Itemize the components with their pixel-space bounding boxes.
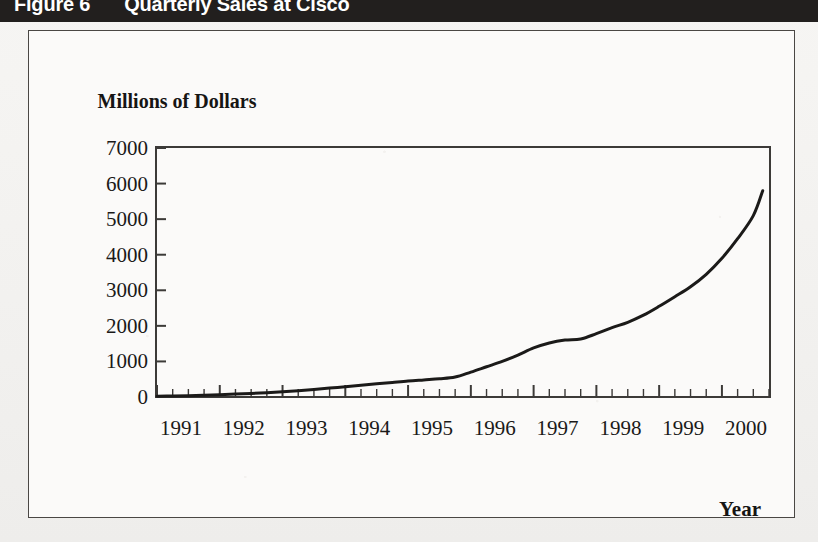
line-chart-svg [155, 146, 771, 398]
figure-number-label: Figure 6 [14, 0, 90, 16]
figure-title-bar: Figure 6 Quarterly Sales at Cisco [0, 0, 818, 22]
y-axis-title: Millions of Dollars [87, 89, 267, 115]
x-tick-label: 1997 [537, 416, 579, 441]
y-tick-label: 3000 [78, 278, 148, 303]
x-axis-quarterly-ticks [157, 385, 769, 397]
y-tick-label: 2000 [78, 313, 148, 338]
figure-title: Quarterly Sales at Cisco [124, 0, 349, 16]
y-tick-label: 4000 [78, 242, 148, 267]
x-tick-label: 1995 [411, 416, 453, 441]
x-tick-label: 2000 [725, 416, 767, 441]
x-tick-label: 1993 [286, 416, 328, 441]
y-axis-title-line1: Millions of Dollars [98, 90, 257, 112]
y-axis-tick-labels: 01000200030004000500060007000 [75, 146, 148, 398]
plot-frame [156, 146, 771, 398]
x-tick-label: 1996 [474, 416, 516, 441]
y-tick-label: 6000 [78, 171, 148, 196]
y-tick-label: 1000 [78, 349, 148, 374]
x-axis-title: Year [719, 497, 761, 522]
y-axis-major-ticks [156, 148, 166, 397]
x-tick-label: 1998 [599, 416, 641, 441]
plot-area [155, 146, 771, 398]
y-tick-label: 5000 [78, 207, 148, 232]
x-tick-label: 1991 [160, 416, 202, 441]
figure-page: Figure 6 Quarterly Sales at Cisco Millio… [0, 0, 818, 542]
x-axis-tick-labels: 1991199219931994199519961997199819992000 [155, 416, 771, 446]
x-tick-label: 1994 [348, 416, 390, 441]
x-tick-label: 1992 [223, 416, 265, 441]
y-tick-label: 0 [78, 385, 148, 410]
y-tick-label: 7000 [78, 136, 148, 161]
x-tick-label: 1999 [662, 416, 704, 441]
sales-line-series [157, 191, 763, 397]
